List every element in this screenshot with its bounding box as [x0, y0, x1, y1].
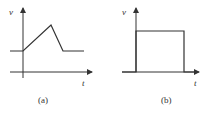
- panel-a: v t (a): [9, 7, 92, 105]
- y-label-a: v: [9, 7, 13, 17]
- caption-b: (b): [161, 95, 172, 105]
- y-label-b: v: [122, 7, 126, 17]
- x-label-a: t: [82, 78, 85, 88]
- panel-b: v t (b): [122, 7, 199, 105]
- waveform-a: [10, 25, 84, 51]
- x-label-b: t: [194, 78, 197, 88]
- caption-a: (a): [38, 95, 48, 105]
- diagram-canvas: v t (a) v t (b): [0, 0, 212, 117]
- waveform-b: [122, 31, 196, 72]
